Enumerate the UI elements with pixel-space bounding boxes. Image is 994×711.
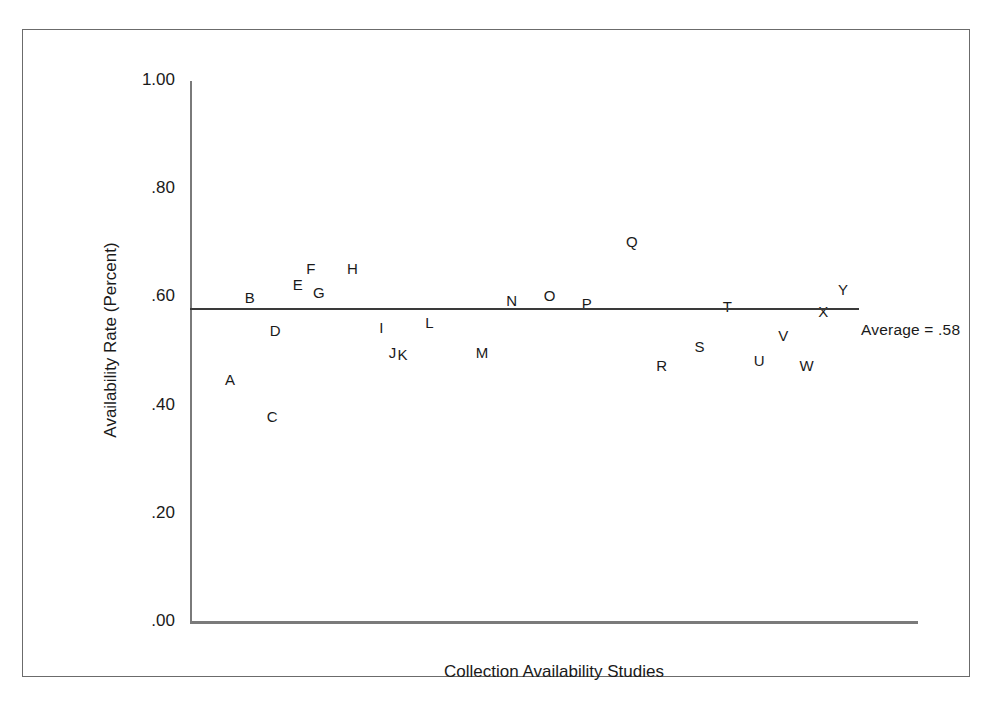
data-point-b: B [245,290,255,305]
figure-page: 1.00.80.60.40.20.00 Availability Rate (P… [0,0,994,711]
data-point-q: Q [626,233,638,248]
y-axis-tick-label: .40 [113,395,175,415]
plot-area: ABCDEFGHIJKLMNOPQRSTUVWXY [190,81,918,622]
y-axis-tick-label: .20 [113,503,175,523]
average-reference-line [190,308,859,310]
average-label: Average = .58 [861,321,960,339]
data-point-g: G [313,284,325,299]
data-point-m: M [476,344,489,359]
data-point-e: E [293,276,303,291]
y-axis-tick-label: 1.00 [113,70,175,90]
data-point-s: S [695,339,705,354]
data-point-w: W [800,358,814,373]
y-axis-title: Availability Rate (Percent) [101,190,121,490]
data-point-y: Y [838,282,848,297]
data-point-f: F [306,260,315,275]
y-axis-tick-label: .60 [113,286,175,306]
data-point-x: X [818,303,828,318]
data-point-o: O [544,287,556,302]
data-point-l: L [425,314,433,329]
data-point-h: H [347,260,358,275]
data-point-v: V [778,328,788,343]
data-point-a: A [225,371,235,386]
data-point-d: D [270,322,281,337]
data-point-j: J [389,344,397,359]
data-point-u: U [754,352,765,367]
x-axis-title: Collection Availability Studies [190,662,918,682]
figure-frame: 1.00.80.60.40.20.00 Availability Rate (P… [22,29,970,677]
y-axis-tick-label: .00 [113,611,175,631]
y-axis-tick-label: .80 [113,178,175,198]
data-point-i: I [379,320,383,335]
data-point-n: N [506,293,517,308]
data-point-k: K [398,347,408,362]
data-point-r: R [656,358,667,373]
data-point-c: C [267,409,278,424]
data-point-t: T [723,298,732,313]
